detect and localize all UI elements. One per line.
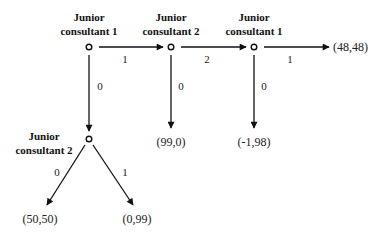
payoff-48-48: (48,48) (333, 40, 368, 54)
edge-label-n4-left: 0 (54, 166, 60, 178)
node2-player-label-line2: consultant 2 (142, 25, 200, 37)
edge-label-n1-n4: 0 (97, 80, 103, 92)
game-tree-diagram: Junior consultant 1 Junior consultant 2 … (0, 0, 388, 240)
diagram-svg: Junior consultant 1 Junior consultant 2 … (0, 0, 388, 240)
edge-label-n4-right: 1 (122, 166, 128, 178)
payoff-neg1-98: (-1,98) (238, 135, 271, 149)
edge-label-n2-n3: 2 (204, 53, 210, 65)
node3-player-label-line2: consultant 1 (225, 25, 282, 37)
decision-node-4 (86, 136, 92, 142)
edge-label-n1-n2: 1 (122, 53, 128, 65)
decision-node-3 (251, 44, 257, 50)
payoff-50-50: (50,50) (23, 212, 58, 226)
node4-player-label-line1: Junior (28, 130, 59, 142)
edge-label-n3-down: 0 (261, 80, 267, 92)
payoff-99-0: (99,0) (157, 135, 186, 149)
edge-label-n2-down: 0 (178, 80, 184, 92)
decision-node-1 (86, 44, 92, 50)
edge-label-n3-right: 1 (287, 53, 293, 65)
payoff-0-99: (0,99) (123, 212, 152, 226)
decision-node-2 (168, 44, 174, 50)
node3-player-label-line1: Junior (238, 11, 269, 23)
node4-player-label-line2: consultant 2 (15, 144, 73, 156)
node1-player-label-line1: Junior (73, 11, 104, 23)
node1-player-label-line2: consultant 1 (60, 25, 117, 37)
node2-player-label-line1: Junior (155, 11, 186, 23)
